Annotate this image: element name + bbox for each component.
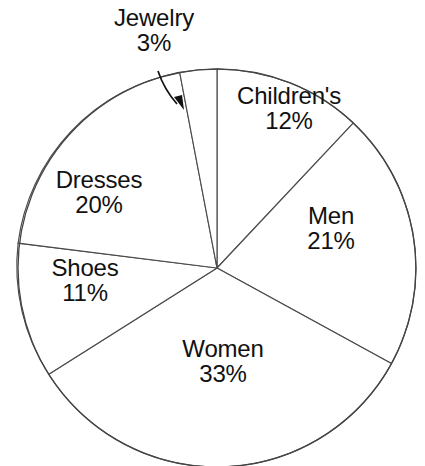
pie-label-dresses-name: Dresses [28,167,170,192]
pie-label-jewelry: Jewelry 3% [88,5,220,56]
pie-label-shoes: Shoes 11% [26,255,144,306]
pie-label-dresses: Dresses 20% [28,167,170,218]
pie-label-jewelry-percent: 3% [88,30,220,55]
pie-label-childrens: Children's 12% [216,83,362,134]
pie-chart-figure: Jewelry 3% Children's 12% Men 21% Women … [0,0,425,466]
pie-label-women: Women 33% [148,336,298,387]
pie-label-jewelry-name: Jewelry [88,5,220,30]
pie-label-shoes-name: Shoes [26,255,144,280]
pie-label-women-percent: 33% [148,361,298,386]
pie-label-men-name: Men [283,203,379,228]
pie-label-shoes-percent: 11% [26,280,144,305]
pie-label-childrens-name: Children's [216,83,362,108]
pie-label-men-percent: 21% [283,228,379,253]
pie-label-dresses-percent: 20% [28,192,170,217]
pie-label-women-name: Women [148,336,298,361]
pie-label-men: Men 21% [283,203,379,254]
pie-label-childrens-percent: 12% [216,108,362,133]
